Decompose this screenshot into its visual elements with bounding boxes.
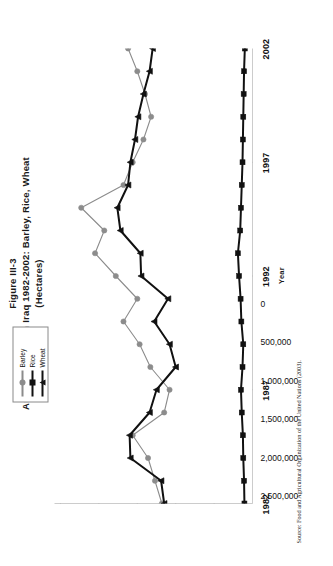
- legend-swatch-wheat: [38, 370, 46, 396]
- year-tick-1987: 1987: [260, 379, 270, 400]
- rotated-figure-canvas: Figure III-3 Area Cultivated in Iraq 198…: [0, 0, 333, 566]
- value-tick-1: 500,000: [260, 336, 291, 346]
- year-tick-2002: 2002: [260, 38, 270, 59]
- legend-label-rice: Rice: [28, 354, 35, 367]
- chart-svg: [52, 48, 252, 503]
- legend-marker-wheat: [39, 379, 45, 385]
- figure-number: Figure III-3: [6, 0, 17, 566]
- x-axis-label: Year: [276, 266, 285, 283]
- value-tick-0: 0: [260, 298, 265, 308]
- plot-area: [52, 48, 252, 503]
- source-note: Source: Food and Agricultural Organizati…: [294, 360, 301, 543]
- legend-item-barley[interactable]: Barley: [16, 348, 27, 396]
- chart-legend: Barley Rice Wheat: [12, 326, 48, 402]
- legend-label-barley: Barley: [18, 348, 25, 367]
- legend-swatch-barley: [18, 370, 26, 396]
- legend-item-rice[interactable]: Rice: [26, 354, 37, 396]
- figure-subtitle: (Hectares): [32, 0, 43, 566]
- year-tick-1982: 1982: [260, 493, 270, 514]
- legend-label-wheat: Wheat: [38, 348, 45, 367]
- year-tick-1992: 1992: [260, 266, 270, 287]
- year-tick-1997: 1997: [260, 152, 270, 173]
- value-tick-4: 2,000,000: [260, 452, 298, 462]
- legend-swatch-rice: [28, 370, 36, 396]
- figure-title: Area Cultivated in Iraq 1982-2002: Barle…: [19, 0, 30, 566]
- legend-marker-barley: [19, 379, 25, 385]
- value-tick-3: 1,500,000: [260, 413, 298, 423]
- legend-marker-rice: [29, 379, 35, 385]
- legend-item-wheat[interactable]: Wheat: [36, 348, 47, 396]
